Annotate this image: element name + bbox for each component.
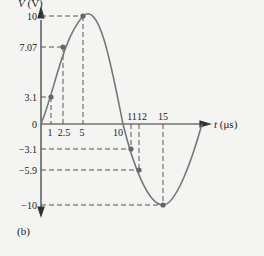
data-point	[80, 13, 85, 18]
axes	[38, 8, 210, 216]
y-tick: −5.9	[19, 165, 37, 176]
y-axis-label: V (V)	[18, 0, 43, 10]
x-tick: 15	[158, 111, 168, 122]
x-tick: 5	[80, 127, 85, 138]
sine-wave-chart: V (V) 10 7.07 3.1 0 −3.1 −5.9 −10 1 2.5 …	[0, 0, 264, 256]
y-tick: 7.07	[20, 42, 38, 53]
x-tick: 12	[137, 111, 147, 122]
data-points	[48, 13, 165, 207]
y-tick: 0	[32, 119, 37, 130]
y-axis-down-arrow-icon	[38, 207, 44, 216]
sine-curve	[41, 14, 202, 205]
y-tick: 3.1	[25, 92, 38, 103]
x-tick: 10	[113, 127, 123, 138]
figure-caption: (b)	[17, 225, 30, 238]
y-tick: −3.1	[19, 144, 37, 155]
x-axis-label: t (μs)	[214, 118, 238, 131]
data-point	[48, 94, 53, 99]
data-point	[160, 202, 165, 207]
y-tick: −10	[21, 200, 37, 211]
x-tick: 11	[127, 111, 137, 122]
data-point	[136, 167, 141, 172]
data-point	[60, 44, 65, 49]
y-tick: 10	[27, 11, 37, 22]
y-tick-labels: 10 7.07 3.1 0 −3.1 −5.9 −10	[19, 11, 37, 211]
data-point	[128, 146, 133, 151]
x-tick: 2.5	[58, 127, 71, 138]
x-tick: 1	[48, 127, 53, 138]
